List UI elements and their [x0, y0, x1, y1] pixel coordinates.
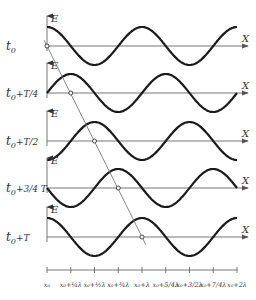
tick-label: x₀+¼λ — [60, 281, 82, 289]
wave-rows: EXt0EXt0+T/4EXt0+T/2EXt0+3/4 TEXt0+T — [6, 13, 250, 256]
x-axis-label: X — [241, 80, 250, 91]
time-label: t0+T/2 — [6, 134, 38, 150]
e-axis-label: E — [50, 204, 59, 215]
tick-label: x₀+2λ — [227, 281, 247, 289]
phase-point-marker — [140, 235, 144, 239]
tick-label: x₀+7/4λ — [200, 281, 226, 289]
e-axis-label: E — [50, 155, 59, 166]
e-axis-label: E — [50, 108, 59, 119]
phase-propagation-line — [44, 40, 146, 244]
x-axis-label: X — [241, 128, 250, 139]
wave-row: EXt0+3/4 T — [6, 155, 250, 207]
position-axis: x₀x₀+¼λx₀+½λx₀+¾λx₀+λx₀+5/4λx₀+3/2λx₀+7/… — [44, 267, 247, 289]
wave-row: EXt0 — [6, 13, 250, 65]
tick-label: x₀+3/2λ — [176, 281, 202, 289]
phase-point-marker — [69, 91, 73, 95]
phase-point-marker — [116, 186, 120, 190]
phase-point-marker — [93, 139, 97, 143]
tick-label: x₀+λ — [134, 281, 150, 289]
e-axis-label: E — [50, 13, 59, 24]
tick-label: x₀+5/4λ — [153, 281, 179, 289]
time-label: t0+3/4 T — [6, 181, 48, 197]
time-label: t0 — [6, 39, 16, 55]
x-axis-label: X — [241, 33, 250, 44]
wave-row: EXt0+T/2 — [6, 108, 250, 160]
traveling-wave-diagram: EXt0EXt0+T/4EXt0+T/2EXt0+3/4 TEXt0+T x₀x… — [0, 0, 256, 300]
phase-point-marker — [45, 44, 49, 48]
x-axis-label: X — [241, 175, 250, 186]
time-label: t0+T — [6, 230, 30, 246]
tick-label: x₀+¾λ — [107, 281, 129, 289]
wave-row: EXt0+T — [6, 204, 250, 256]
tick-label: x₀ — [44, 281, 51, 289]
x-axis-label: X — [241, 224, 250, 235]
wave-row: EXt0+T/4 — [6, 60, 250, 112]
tick-label: x₀+½λ — [83, 281, 105, 289]
time-label: t0+T/4 — [6, 86, 38, 102]
